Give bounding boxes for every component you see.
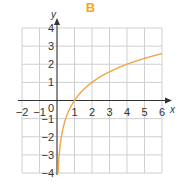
x-tick-label: 3	[106, 106, 112, 118]
x-tick-label: 4	[124, 106, 130, 118]
y-tick-label: −2	[41, 131, 54, 143]
log-graph: xy−2−11234560−4−3−2−11234	[0, 0, 181, 185]
y-tick-label: −3	[41, 149, 54, 161]
x-tick-label: 1	[71, 106, 77, 118]
x-tick-label: 2	[89, 106, 95, 118]
x-tick-label: −2	[16, 106, 29, 118]
y-tick-label: −1	[41, 113, 54, 125]
y-axis-label: y	[50, 9, 57, 20]
y-tick-label: 4	[48, 22, 54, 34]
x-axis-label: x	[169, 104, 176, 115]
y-tick-label: 2	[48, 58, 54, 70]
y-tick-label: 1	[48, 76, 54, 88]
x-tick-label: 5	[141, 106, 147, 118]
y-tick-label: −4	[41, 167, 54, 179]
y-tick-label: 3	[48, 40, 54, 52]
x-tick-label: 6	[159, 106, 165, 118]
